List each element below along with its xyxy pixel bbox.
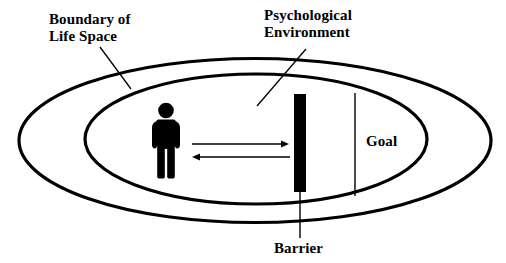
boundary-of-life-space-label: Boundary ofLife Space	[49, 11, 131, 45]
boundary-leader-line	[100, 47, 131, 89]
outer-ellipse-boundary-of-life-space	[19, 59, 491, 223]
diagram-canvas: Boundary ofLife Space PsychologicalEnvir…	[0, 0, 506, 263]
psychological-label-line2: Environment	[264, 24, 350, 40]
psychological-label-line1: Psychological	[264, 7, 352, 23]
barrier-label: Barrier	[274, 240, 323, 257]
psychological-environment-label: PsychologicalEnvironment	[264, 7, 352, 41]
person-icon	[152, 103, 180, 179]
approach-arrow	[192, 141, 289, 148]
avoidance-arrow	[192, 154, 290, 161]
goal-label: Goal	[366, 133, 397, 150]
boundary-label-line1: Boundary of	[49, 11, 131, 27]
boundary-label-line2: Life Space	[49, 28, 117, 44]
barrier-bar	[294, 94, 306, 192]
